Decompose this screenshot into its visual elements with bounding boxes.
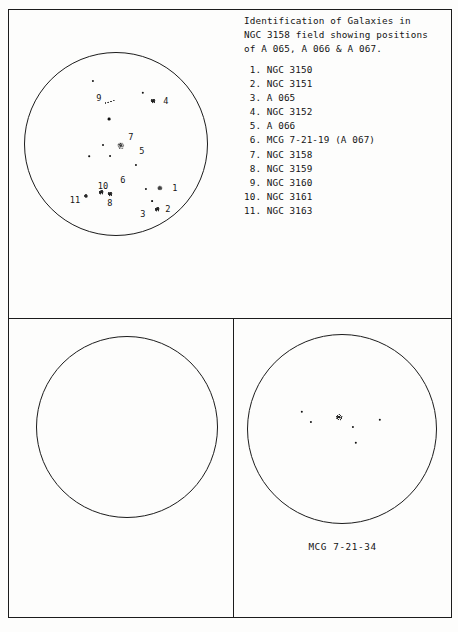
- marker-label-10: 10: [98, 181, 109, 191]
- plate-circle-bottom-right: [247, 334, 437, 524]
- marker-faint-galaxy: [131, 149, 135, 153]
- marker-star: [109, 155, 111, 157]
- marker-galaxy: [108, 192, 113, 197]
- legend-item: 7. NGC 3158: [244, 148, 450, 162]
- legend-item: 1. NGC 3150: [244, 63, 450, 77]
- legend-item: 8. NGC 3159: [244, 162, 450, 176]
- caption-line-2: NGC 3158 field showing positions: [244, 29, 428, 40]
- legend-item: 3. A 065: [244, 91, 450, 105]
- marker-streak: [104, 100, 116, 105]
- marker-galaxy: [336, 414, 343, 421]
- marker-star: [102, 144, 104, 146]
- legend-item: 2. NGC 3151: [244, 77, 450, 91]
- marker-label-11: 11: [70, 195, 81, 205]
- legend-item: 11. NGC 3163: [244, 204, 450, 218]
- marker-label-8: 8: [107, 198, 112, 208]
- scanned-figure-page: 1234567891011 Identification of Galaxies…: [0, 0, 458, 632]
- figure-caption: Identification of Galaxies in NGC 3158 f…: [244, 14, 450, 57]
- marker-label-6: 6: [120, 175, 125, 185]
- marker-faint-galaxy: [149, 211, 153, 215]
- marker-label-9: 9: [96, 93, 101, 103]
- marker-label-3: 3: [140, 209, 145, 219]
- marker-galaxy: [151, 99, 156, 104]
- plate-circle-bottom-left: [36, 336, 218, 518]
- caption-line-1: Identification of Galaxies in: [244, 15, 411, 26]
- legend-item: 9. NGC 3160: [244, 176, 450, 190]
- plate-circle-top: [24, 52, 208, 236]
- marker-label-4: 4: [163, 96, 168, 106]
- marker-label-7: 7: [128, 132, 133, 142]
- galaxy-identification-list: 1. NGC 3150 2. NGC 3151 3. A 065 4. NGC …: [244, 63, 450, 218]
- marker-label-2: 2: [165, 204, 170, 214]
- legend-item: 10. NGC 3161: [244, 190, 450, 204]
- marker-star: [151, 200, 153, 202]
- marker-galaxy: [155, 207, 160, 212]
- marker-star: [88, 155, 90, 157]
- marker-label-1: 1: [172, 183, 177, 193]
- legend-item: 5. A 066: [244, 119, 450, 133]
- legend-item: 4. NGC 3152: [244, 105, 450, 119]
- marker-label-5: 5: [139, 146, 144, 156]
- plate-label-mcg: MCG 7-21-34: [233, 541, 452, 552]
- legend-item: 6. MCG 7-21-19 (A 067): [244, 133, 450, 147]
- caption-line-3: of A 065, A 066 & A 067.: [244, 43, 382, 54]
- marker-star: [108, 118, 111, 121]
